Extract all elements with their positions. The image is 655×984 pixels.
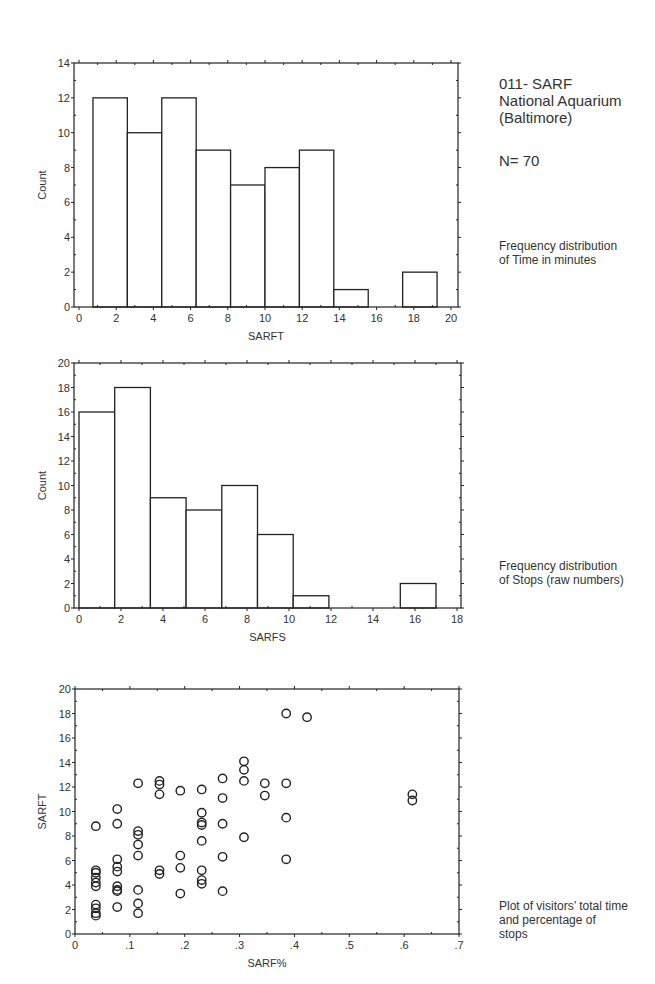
scatter-point [113, 805, 121, 813]
x-tick-label: 6 [188, 312, 194, 324]
scatter-point [261, 779, 269, 787]
study-id: 011- SARF [499, 75, 622, 92]
y-tick-label: 10 [58, 480, 70, 492]
scatter-point [134, 779, 142, 787]
scatter-point [240, 757, 248, 765]
y-tick-label: 2 [64, 578, 70, 590]
y-tick-label: 20 [58, 357, 70, 369]
y-tick-label: 12 [58, 92, 70, 104]
y-axis-label: Count [36, 170, 48, 199]
scatter-point [261, 791, 269, 799]
caption-time-line-2: of Time in minutes [499, 253, 617, 267]
y-tick-label: 12 [59, 781, 71, 793]
study-title: 011- SARF National Aquarium (Baltimore) [499, 75, 622, 126]
scatter-point [176, 889, 184, 897]
scatter-point [134, 899, 142, 907]
y-tick-label: 10 [58, 127, 70, 139]
y-axis-label: SARFT [36, 793, 48, 829]
y-tick-label: 2 [64, 266, 70, 278]
x-tick-label: .6 [400, 939, 409, 951]
x-tick-label: 8 [244, 613, 250, 625]
x-tick-label: 14 [333, 312, 345, 324]
histogram-bar [127, 133, 161, 307]
caption-time-line-1: Frequency distribution [499, 239, 617, 253]
x-tick-label: .1 [125, 939, 134, 951]
scatter-point [218, 820, 226, 828]
x-tick-label: 2 [113, 312, 119, 324]
y-tick-label: 20 [59, 683, 71, 695]
x-tick-label: 4 [150, 312, 156, 324]
y-tick-label: 6 [64, 196, 70, 208]
x-tick-label: 0 [76, 312, 82, 324]
scatter-point [240, 833, 248, 841]
y-tick-label: 8 [64, 162, 70, 174]
x-tick-label: 10 [283, 613, 295, 625]
caption-time: Frequency distribution of Time in minute… [499, 239, 617, 267]
scatter-point [92, 822, 100, 830]
x-tick-label: 0 [72, 939, 78, 951]
scatter-point [282, 813, 290, 821]
x-tick-label: 12 [325, 613, 337, 625]
y-tick-label: 0 [65, 928, 71, 940]
scatter-point [198, 837, 206, 845]
scatter-point [218, 774, 226, 782]
y-tick-label: 8 [64, 504, 70, 516]
y-tick-label: 4 [64, 231, 70, 243]
histogram-bar [222, 486, 258, 609]
histogram-bar [299, 150, 333, 307]
institution-name: National Aquarium [499, 92, 622, 109]
scatter-point [134, 909, 142, 917]
scatter-point [155, 790, 163, 798]
x-tick-label: 6 [202, 613, 208, 625]
scatter-point [282, 709, 290, 717]
scatter-point [240, 766, 248, 774]
scatter-point [282, 855, 290, 863]
y-tick-label: 16 [58, 406, 70, 418]
x-tick-label: 18 [451, 613, 463, 625]
x-tick-label: 8 [225, 312, 231, 324]
scatter-point [176, 864, 184, 872]
x-tick-label: 20 [445, 312, 457, 324]
caption-scatter: Plot of visitors’ total time and percent… [499, 899, 628, 941]
scatter-point [240, 777, 248, 785]
scatter-point [176, 851, 184, 859]
histogram-bar [400, 584, 436, 609]
x-tick-label: 16 [409, 613, 421, 625]
scatter-point [113, 820, 121, 828]
y-tick-label: 0 [64, 602, 70, 614]
scatter-point [198, 866, 206, 874]
institution-location: (Baltimore) [499, 109, 622, 126]
y-tick-label: 14 [58, 431, 70, 443]
y-tick-label: 18 [58, 382, 70, 394]
caption-stops-line-2: of Stops (raw numbers) [499, 573, 624, 587]
x-axis-label: SARFT [248, 330, 284, 342]
histogram-bar [403, 272, 437, 307]
histogram-bar [79, 412, 115, 608]
x-tick-label: 2 [118, 613, 124, 625]
x-tick-label: 14 [367, 613, 379, 625]
histogram-bar [150, 498, 186, 608]
scatter-point [218, 887, 226, 895]
histogram-bar [115, 388, 151, 609]
histogram-bar [293, 596, 329, 608]
y-axis-label: Count [36, 471, 48, 500]
x-tick-label: 12 [296, 312, 308, 324]
scatter-point [113, 903, 121, 911]
caption-scatter-line-1: Plot of visitors’ total time [499, 899, 628, 913]
charts-canvas: 0246810121402468101214161820SARFTCount 0… [0, 0, 655, 984]
y-tick-label: 14 [59, 757, 71, 769]
y-tick-label: 4 [65, 879, 71, 891]
scatter-point [282, 779, 290, 787]
y-tick-label: 18 [59, 708, 71, 720]
y-tick-label: 4 [64, 553, 70, 565]
x-tick-label: 10 [259, 312, 271, 324]
y-tick-label: 2 [65, 904, 71, 916]
histogram-bar [231, 185, 265, 307]
x-tick-label: 18 [408, 312, 420, 324]
x-tick-label: 16 [370, 312, 382, 324]
histogram-bar [258, 535, 294, 609]
y-tick-label: 16 [59, 732, 71, 744]
histogram-bar [162, 98, 196, 307]
y-tick-label: 8 [65, 830, 71, 842]
scatter-point [134, 851, 142, 859]
